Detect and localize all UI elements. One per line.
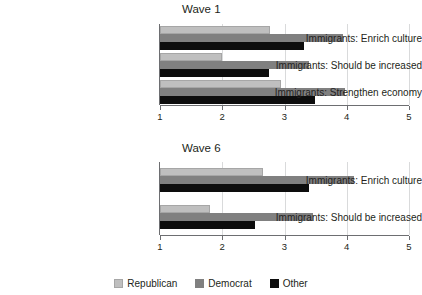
legend-item-republican: Republican — [114, 278, 177, 289]
x-axis-tick — [409, 106, 410, 110]
category-label: Immigrants: Enrich culture — [267, 32, 422, 43]
bar-republican — [160, 205, 210, 213]
x-axis-tick — [222, 106, 223, 110]
x-axis-tick-label: 4 — [344, 241, 349, 252]
x-axis-tick — [160, 106, 161, 110]
category-label: Immigrants: Should be increased — [267, 211, 422, 222]
chart-legend: Republican Democrat Other — [0, 278, 422, 289]
category-label: Immigrants: Enrich culture — [267, 175, 422, 186]
legend-swatch-republican-icon — [114, 279, 123, 288]
chart-panel-wave-1: Wave 1 12345 Immigrants: Enrich cultureI… — [0, 0, 422, 130]
chart-title-wave-6: Wave 6 — [182, 142, 221, 154]
legend-item-other: Other — [270, 278, 308, 289]
x-axis-tick-label: 1 — [157, 111, 162, 122]
x-axis-tick-label: 1 — [157, 241, 162, 252]
plot-area-wave-6: 12345 — [159, 162, 409, 235]
x-axis-tick-label: 2 — [220, 111, 225, 122]
chart-panel-wave-6: Wave 6 12345 Immigrants: Enrich cultureI… — [0, 140, 422, 265]
x-axis-tick-label: 3 — [282, 111, 287, 122]
legend-swatch-other-icon — [270, 279, 279, 288]
x-axis-tick — [347, 236, 348, 240]
category-label: Immigrants: Strengthen economy — [267, 86, 422, 97]
legend-label-other: Other — [283, 278, 308, 289]
bar-republican — [160, 168, 263, 176]
bar-other — [160, 69, 269, 77]
category-label: Immigrants: Should be increased — [267, 59, 422, 70]
x-axis-tick-label: 2 — [220, 241, 225, 252]
chart-title-wave-1: Wave 1 — [182, 3, 221, 15]
gridline — [347, 162, 348, 235]
x-axis-tick-label: 5 — [406, 111, 411, 122]
bar-republican — [160, 26, 270, 34]
bar-republican — [160, 80, 281, 88]
x-axis-tick — [160, 236, 161, 240]
legend-label-republican: Republican — [127, 278, 177, 289]
x-axis-tick — [347, 106, 348, 110]
x-axis-tick — [285, 106, 286, 110]
legend-swatch-democrat-icon — [195, 279, 204, 288]
x-axis-tick — [409, 236, 410, 240]
x-axis-tick-label: 5 — [406, 241, 411, 252]
x-axis-tick — [285, 236, 286, 240]
bar-other — [160, 221, 255, 229]
x-axis-tick-label: 3 — [282, 241, 287, 252]
gridline — [409, 162, 410, 235]
legend-label-democrat: Democrat — [208, 278, 251, 289]
gridline — [285, 162, 286, 235]
legend-item-democrat: Democrat — [195, 278, 251, 289]
x-axis-tick-label: 4 — [344, 111, 349, 122]
bar-republican — [160, 53, 222, 61]
x-axis-tick — [222, 236, 223, 240]
